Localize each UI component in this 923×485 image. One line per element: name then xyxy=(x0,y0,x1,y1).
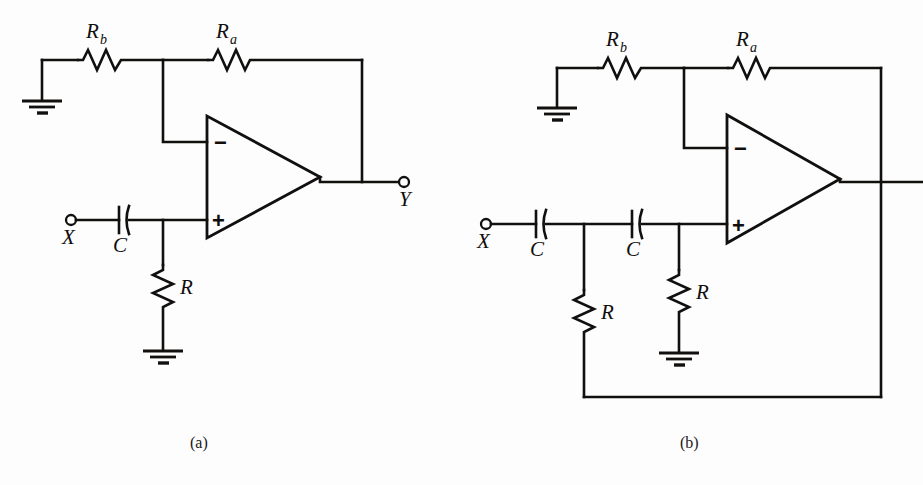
panel-a-circuit: − + Y X C R xyxy=(22,19,413,363)
caption-panel-b: (b) xyxy=(680,434,699,452)
resistor-r2-b xyxy=(669,270,689,352)
ground-symbol-b-top xyxy=(537,68,577,120)
resistor-ra-sublabel-a: a xyxy=(230,32,237,47)
wire-inverting-input-b xyxy=(684,68,727,148)
resistor-r1-b xyxy=(574,290,594,397)
resistor-r1-label-b: R xyxy=(600,300,614,324)
capacitor-c2-label-b: C xyxy=(626,237,641,261)
resistor-rb-sublabel-b: b xyxy=(620,40,627,55)
terminal-x-node-b[interactable] xyxy=(481,219,491,229)
terminal-x-label-a: X xyxy=(61,225,76,249)
caption-panel-a: (a) xyxy=(190,434,208,452)
wire-output-a xyxy=(320,177,399,182)
resistor-ra-label-a: R xyxy=(215,19,229,43)
ground-symbol-a-top xyxy=(22,60,62,113)
opamp-minus-sign-b: − xyxy=(734,136,747,161)
resistor-r2-label-b: R xyxy=(695,280,709,304)
resistor-ra-a xyxy=(208,50,362,70)
resistor-rb-label-b: R xyxy=(605,27,619,51)
terminal-y-label-a: Y xyxy=(399,187,413,211)
wire-inverting-input-a xyxy=(163,60,207,142)
resistor-r-a xyxy=(153,265,173,350)
resistor-rb-sublabel-a: b xyxy=(100,32,107,47)
panel-b-circuit: − + X C C R xyxy=(476,27,923,397)
resistor-rb-b xyxy=(598,58,684,78)
opamp-plus-sign-b: + xyxy=(732,213,745,238)
opamp-plus-sign-a: + xyxy=(212,208,225,233)
resistor-r-label-a: R xyxy=(179,275,193,299)
terminal-y-node-a[interactable] xyxy=(399,177,409,187)
ground-symbol-b-bottom xyxy=(659,353,699,365)
capacitor-c1-label-b: C xyxy=(530,237,545,261)
figure-root: − + Y X C R xyxy=(0,0,923,485)
opamp-minus-sign-a: − xyxy=(214,130,227,155)
resistor-ra-b xyxy=(728,58,881,78)
resistor-ra-sublabel-b: a xyxy=(750,40,757,55)
capacitor-c-label-a: C xyxy=(113,233,128,257)
circuit-diagram-canvas: − + Y X C R xyxy=(0,0,923,485)
resistor-ra-label-b: R xyxy=(735,27,749,51)
terminal-x-label-b: X xyxy=(476,229,491,253)
terminal-x-node-a[interactable] xyxy=(66,215,76,225)
ground-symbol-a-bottom xyxy=(143,351,183,363)
resistor-rb-label-a: R xyxy=(85,19,99,43)
resistor-rb-a xyxy=(78,50,163,70)
